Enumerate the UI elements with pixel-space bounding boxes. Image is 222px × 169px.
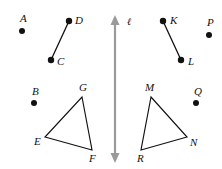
segment-cd: D C — [48, 14, 83, 67]
point-p-label: P — [206, 16, 214, 28]
point-k-label: K — [169, 14, 178, 26]
triangle-mnr: M N R — [136, 81, 198, 164]
point-b-label: B — [32, 85, 39, 97]
point-p-dot — [206, 32, 212, 38]
point-a-dot — [19, 28, 25, 34]
point-e-label: E — [33, 135, 41, 147]
triangle-efg-outline — [45, 97, 92, 150]
point-d-dot — [66, 18, 72, 24]
point-k-dot — [160, 18, 166, 24]
point-c-dot — [48, 57, 54, 63]
segment-kl-line — [163, 21, 181, 60]
point-d-label: D — [74, 14, 83, 26]
point-b-dot — [31, 100, 37, 106]
point-f-label: F — [88, 152, 96, 164]
point-c-label: C — [57, 55, 65, 67]
point-m-label: M — [144, 81, 155, 93]
point-q-label: Q — [194, 85, 202, 97]
point-q-dot — [193, 100, 199, 106]
mirror-line-label: ℓ — [127, 16, 131, 27]
geometry-figure: ℓ A B P Q D C — [0, 0, 222, 169]
segment-kl: K L — [160, 14, 194, 67]
point-a: A — [19, 12, 27, 34]
figure-canvas: ℓ A B P Q D C — [0, 0, 222, 169]
mirror-arrow-up-icon — [111, 15, 120, 25]
point-a-label: A — [19, 12, 27, 24]
point-p: P — [206, 16, 214, 38]
mirror-line-group: ℓ — [111, 15, 132, 163]
triangle-efg: G F E — [33, 81, 96, 164]
point-g-label: G — [79, 81, 87, 93]
point-n-label: N — [189, 136, 198, 148]
point-q: Q — [193, 85, 202, 106]
mirror-arrow-down-icon — [111, 153, 120, 163]
point-b: B — [31, 85, 39, 106]
point-r-label: R — [136, 152, 144, 164]
point-l-label: L — [187, 55, 194, 67]
point-l-dot — [178, 57, 184, 63]
triangle-mnr-outline — [141, 97, 187, 150]
